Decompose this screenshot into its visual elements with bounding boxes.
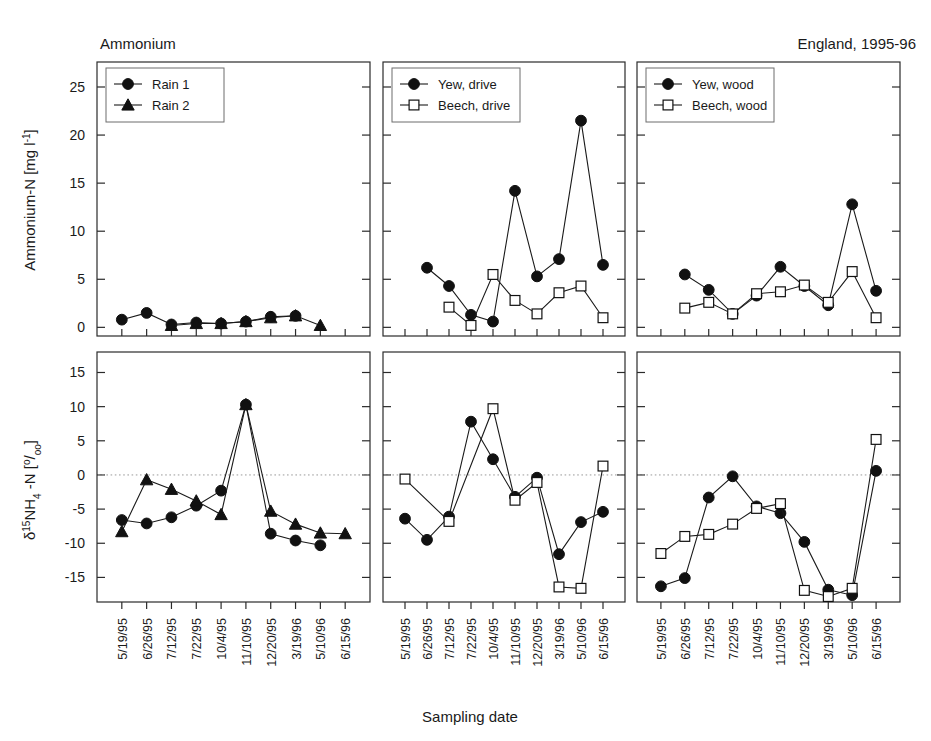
- data-point-open-square: [704, 297, 714, 307]
- data-point-filled-circle: [422, 262, 433, 273]
- data-point-filled-circle: [532, 271, 543, 282]
- data-point-filled-circle: [123, 79, 134, 90]
- x-tick-label-group: 7/22/95: [465, 618, 479, 660]
- legend-label: Beech, wood: [692, 98, 767, 113]
- y-tick-label-bottom: 15: [69, 364, 85, 380]
- data-point-filled-circle: [265, 528, 276, 539]
- data-point-open-square: [444, 302, 454, 312]
- x-axis-label: Sampling date: [422, 708, 518, 725]
- x-tick-label-group: 11/10/95: [240, 618, 254, 666]
- y-tick-label-bottom: 10: [69, 399, 85, 415]
- x-tick-label: 11/10/95: [509, 618, 523, 666]
- x-tick-label: 11/10/95: [774, 618, 788, 666]
- data-point-filled-circle: [409, 79, 420, 90]
- data-point-open-square: [576, 281, 586, 291]
- data-point-filled-circle: [727, 471, 738, 482]
- data-point-filled-circle: [216, 485, 227, 496]
- x-tick-label-group: 6/26/95: [679, 618, 693, 660]
- x-tick-label-group: 7/22/95: [190, 618, 204, 660]
- y-tick-label-top: 25: [69, 79, 85, 95]
- data-point-open-square: [680, 532, 690, 542]
- data-point-filled-circle: [141, 518, 152, 529]
- data-point-filled-circle: [871, 285, 882, 296]
- y-tick-label-top: 10: [69, 223, 85, 239]
- data-point-open-square: [554, 582, 564, 592]
- data-point-filled-circle: [703, 492, 714, 503]
- x-tick-label-group: 6/26/95: [421, 618, 435, 660]
- y-tick-label-bottom: 0: [77, 467, 85, 483]
- x-tick-label: 6/15/96: [597, 618, 611, 660]
- data-point-open-square: [799, 585, 809, 595]
- legend-label: Beech, drive: [438, 98, 510, 113]
- y-tick-label-top: 5: [77, 271, 85, 287]
- data-point-filled-circle: [315, 540, 326, 551]
- x-tick-label-group: 5/19/95: [399, 618, 413, 660]
- x-tick-label: 3/19/96: [822, 618, 836, 660]
- y-tick-label-top: 20: [69, 127, 85, 143]
- x-tick-label-group: 7/12/95: [703, 618, 717, 660]
- data-point-filled-circle: [466, 309, 477, 320]
- x-tick-label-group: 7/12/95: [165, 618, 179, 660]
- y-tick-label-bottom: 5: [77, 433, 85, 449]
- legend-label: Yew, wood: [692, 77, 754, 92]
- x-tick-label: 10/4/95: [487, 618, 501, 660]
- data-point-open-square: [871, 435, 881, 445]
- data-point-open-square: [847, 267, 857, 277]
- data-point-open-square: [847, 583, 857, 593]
- data-point-filled-circle: [576, 115, 587, 126]
- data-point-open-square: [444, 516, 454, 526]
- x-tick-label: 7/22/95: [727, 618, 741, 660]
- x-tick-label: 6/15/96: [339, 618, 353, 660]
- legend-label: Rain 1: [152, 77, 190, 92]
- data-point-filled-circle: [290, 535, 301, 546]
- data-point-filled-circle: [166, 512, 177, 523]
- x-tick-label: 7/22/95: [465, 618, 479, 660]
- data-point-open-square: [466, 321, 476, 331]
- x-tick-label: 3/19/96: [290, 618, 304, 660]
- x-tick-label: 6/26/95: [141, 618, 155, 660]
- data-point-open-square: [752, 504, 762, 514]
- data-point-filled-circle: [847, 199, 858, 210]
- data-point-filled-circle: [703, 284, 714, 295]
- x-tick-label-group: 3/19/96: [290, 618, 304, 660]
- x-tick-label: 7/12/95: [703, 618, 717, 660]
- data-point-open-square: [532, 309, 542, 319]
- figure-title-right: England, 1995-96: [798, 35, 916, 52]
- data-point-filled-circle: [656, 581, 667, 592]
- data-point-open-square: [656, 549, 666, 559]
- figure-root: Ammonium England, 1995-96 Ammonium-N [mg…: [0, 0, 931, 741]
- data-point-filled-circle: [598, 259, 609, 270]
- data-point-filled-circle: [554, 549, 565, 560]
- data-point-filled-circle: [679, 573, 690, 584]
- x-tick-label: 6/26/95: [421, 618, 435, 660]
- data-point-open-square: [799, 280, 809, 290]
- data-point-filled-circle: [141, 308, 152, 319]
- x-tick-label: 10/4/95: [215, 618, 229, 660]
- data-point-open-square: [510, 495, 520, 505]
- x-tick-label-group: 12/20/95: [798, 618, 812, 667]
- y-tick-label-bottom: -10: [65, 535, 85, 551]
- x-tick-label: 5/19/95: [116, 618, 130, 660]
- data-point-open-square: [510, 296, 520, 306]
- legend-panel2: Yew, driveBeech, drive: [392, 68, 520, 122]
- x-tick-label: 12/20/95: [798, 618, 812, 667]
- legend-label: Yew, drive: [438, 77, 497, 92]
- figure-title-left: Ammonium: [100, 35, 176, 52]
- data-point-open-square: [776, 287, 786, 297]
- x-tick-label-group: 11/10/95: [774, 618, 788, 666]
- x-tick-label-group: 3/19/96: [822, 618, 836, 660]
- x-tick-label-group: 11/10/95: [509, 618, 523, 666]
- chart-svg: Ammonium England, 1995-96 Ammonium-N [mg…: [0, 0, 931, 741]
- data-point-filled-circle: [488, 316, 499, 327]
- x-tick-label: 11/10/95: [240, 618, 254, 666]
- x-tick-label: 12/20/95: [531, 618, 545, 667]
- x-tick-label-group: 6/15/96: [870, 618, 884, 660]
- x-tick-label: 6/15/96: [870, 618, 884, 660]
- data-point-open-square: [488, 270, 498, 280]
- y-tick-label-top: 15: [69, 175, 85, 191]
- x-tick-label-group: 7/22/95: [727, 618, 741, 660]
- x-tick-label-group: 5/10/96: [575, 618, 589, 660]
- x-tick-label-group: 5/19/95: [116, 618, 130, 660]
- data-point-filled-circle: [871, 465, 882, 476]
- x-tick-label-group: 10/4/95: [487, 618, 501, 660]
